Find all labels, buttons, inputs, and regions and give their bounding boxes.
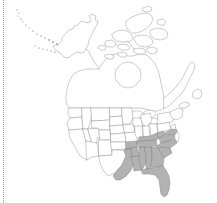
state-kansas <box>111 133 126 142</box>
state-new-mexico <box>99 140 112 156</box>
state-north-dakota <box>110 108 122 117</box>
aleutian-islands <box>16 9 58 52</box>
region-alaska-panhandle <box>86 49 99 69</box>
state-oklahoma-west <box>111 142 126 150</box>
region-new-england <box>170 108 183 120</box>
region-canada-west <box>66 54 165 111</box>
state-nebraska <box>110 125 125 134</box>
state-arizona <box>86 141 99 160</box>
canadian-arctic-archipelago <box>98 6 168 59</box>
region-eastern-canada <box>164 62 195 108</box>
state-washington <box>68 108 82 118</box>
state-minnesota <box>122 108 133 124</box>
region-nova-scotia <box>179 102 189 108</box>
region-alaska <box>53 14 98 58</box>
state-oregon <box>67 117 83 130</box>
distribution-map-figure <box>0 0 217 203</box>
north-america-map <box>0 0 217 203</box>
state-colorado <box>99 130 111 140</box>
shaded-florida <box>141 166 170 197</box>
state-iowa <box>123 124 135 133</box>
state-montana <box>91 108 110 121</box>
map-layer-unshaded <box>16 6 202 176</box>
state-idaho <box>82 108 92 129</box>
hudson-bay <box>115 62 141 88</box>
region-newfoundland <box>193 89 202 99</box>
state-south-dakota <box>110 116 123 126</box>
